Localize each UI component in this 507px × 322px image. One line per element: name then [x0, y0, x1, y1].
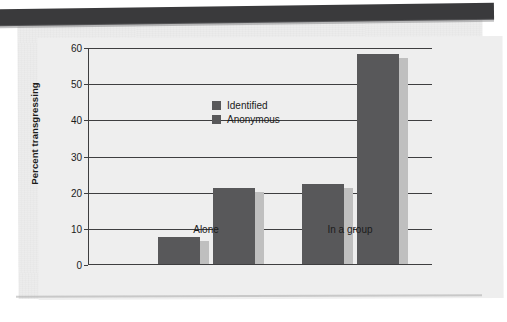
y-axis-tick-label: 20: [71, 187, 82, 198]
y-axis-tick-label: 60: [71, 43, 82, 54]
plot-area: 0102030405060 IdentifiedAnonymous: [88, 48, 432, 265]
y-axis-tick-label: 50: [71, 79, 82, 90]
legend-swatch-icon: [212, 101, 221, 110]
y-axis-tick-mark: [84, 48, 88, 49]
y-axis-tick-label: 10: [71, 223, 82, 234]
bar-shadow: [200, 241, 209, 264]
y-axis-tick-mark: [84, 157, 88, 158]
y-axis-title: Percent transgressing: [29, 74, 40, 194]
x-axis-label-alone: Alone: [193, 224, 219, 235]
chart-figure: Percent transgressing 0102030405060 Iden…: [0, 0, 507, 322]
bar-identified-alone: [158, 237, 200, 264]
y-axis-tick-mark: [84, 193, 88, 194]
legend-swatch-icon: [212, 115, 221, 124]
y-axis-tick-label: 0: [76, 260, 82, 271]
y-axis-tick-label: 40: [71, 115, 82, 126]
y-axis-tick-mark: [84, 229, 88, 230]
legend-item-label: Anonymous: [227, 114, 280, 125]
bar-shadow: [399, 58, 408, 264]
x-axis-line: [88, 264, 432, 265]
chart-legend: IdentifiedAnonymous: [212, 100, 280, 128]
legend-item-anonymous: Anonymous: [212, 114, 280, 125]
scanned-page: Percent transgressing 0102030405060 Iden…: [0, 0, 507, 322]
y-axis-tick-label: 30: [71, 151, 82, 162]
gridline: [88, 48, 432, 49]
legend-item-identified: Identified: [212, 100, 280, 111]
y-axis-tick-mark: [84, 120, 88, 121]
bar-shadow: [255, 192, 264, 264]
legend-item-label: Identified: [227, 100, 268, 111]
y-axis-tick-mark: [84, 84, 88, 85]
y-axis-tick-mark: [84, 265, 88, 266]
x-axis-label-in-a-group: In a group: [327, 224, 372, 235]
